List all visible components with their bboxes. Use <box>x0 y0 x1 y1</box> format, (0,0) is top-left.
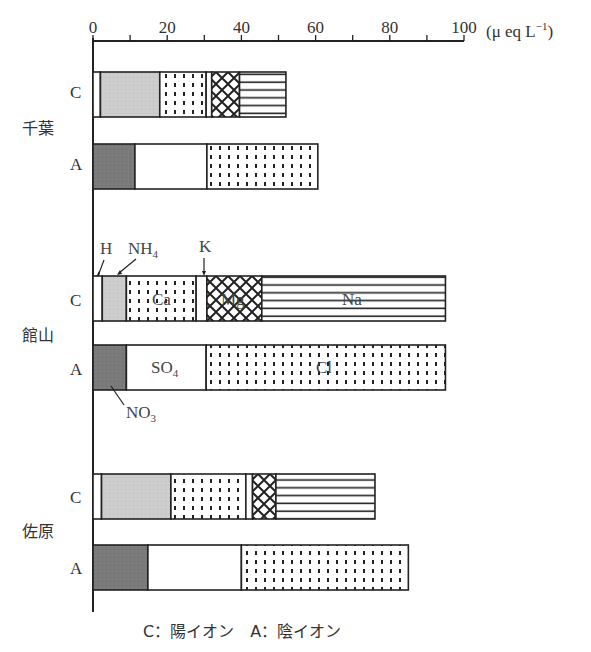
row-label-a: A <box>70 360 83 379</box>
annotation-na: Na <box>342 290 362 309</box>
bar-segment-mg <box>212 72 240 117</box>
bar-segment-ca <box>171 474 246 519</box>
x-tick-label: 20 <box>159 18 176 37</box>
annotation-nh4-pointer <box>119 259 136 273</box>
annotation-h: H <box>100 239 112 258</box>
x-axis: 020406080100 <box>89 18 477 41</box>
bar-segment-ca <box>160 72 206 117</box>
row-label-a: A <box>70 155 83 174</box>
legend-caption: C：陽イオン A：陰イオン <box>143 622 341 641</box>
row-label-a: A <box>70 559 83 578</box>
row-label-c: C <box>70 83 81 102</box>
annotation-nh4: NH4 <box>128 239 159 260</box>
annotation-ca: Ca <box>152 290 171 309</box>
bar-segment-k <box>196 276 207 321</box>
bar-segment-mg <box>253 474 276 519</box>
row-label-c: C <box>70 488 81 507</box>
site-label-tateyama: 館山 <box>22 326 54 345</box>
x-tick-label: 0 <box>89 18 98 37</box>
bar-segment-cl <box>207 144 318 189</box>
annotation-cl: Cl <box>316 358 332 377</box>
bar-segment-so4 <box>148 545 241 590</box>
bar-segment-nh4 <box>102 276 126 321</box>
bar-segment-h <box>93 72 100 117</box>
bar-segment-h <box>93 474 102 519</box>
stacked-bar-chart: 020406080100 (μ eq L−1) 千葉 館山 佐原 C A C A… <box>0 0 591 652</box>
bar-segment-nh4 <box>100 72 159 117</box>
bar-segment-nh4 <box>102 474 171 519</box>
annotation-k: K <box>199 237 212 256</box>
bar-segment-no3 <box>93 144 135 189</box>
bar-segment-cl <box>241 545 408 590</box>
bar-segment-na <box>240 72 286 117</box>
annotation-no3: NO3 <box>126 403 157 424</box>
x-tick-label: 60 <box>307 18 324 37</box>
row-label-c: C <box>70 291 81 310</box>
site-label-chiba: 千葉 <box>22 119 54 138</box>
annotation-mg: Mg <box>221 290 245 309</box>
bar-segment-k <box>246 474 253 519</box>
bar-segment-k <box>206 72 212 117</box>
unit-label: (μ eq L−1) <box>486 20 553 41</box>
x-tick-label: 40 <box>233 18 250 37</box>
bar-segment-no3 <box>93 545 148 590</box>
bar-segment-so4 <box>135 144 207 189</box>
bar-segment-no3 <box>93 345 126 390</box>
bar-segment-na <box>276 474 375 519</box>
bar-segment-h <box>93 276 102 321</box>
x-tick-label: 80 <box>381 18 398 37</box>
bars <box>93 72 445 590</box>
site-label-sawara: 佐原 <box>22 522 54 541</box>
x-tick-label: 100 <box>451 18 477 37</box>
